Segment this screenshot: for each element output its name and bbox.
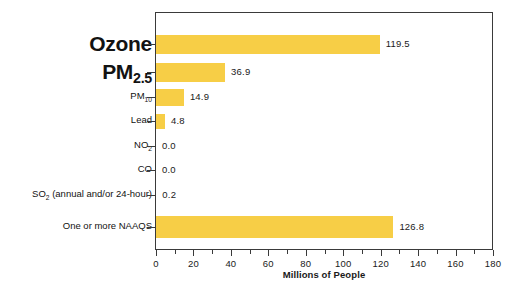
x-tick-major — [193, 250, 194, 256]
category-label: Ozone — [89, 33, 152, 54]
bar-value-label: 0.0 — [162, 140, 176, 151]
bar-value-label: 36.9 — [231, 66, 250, 77]
x-tick-minor — [287, 250, 288, 254]
bar-value-label: 126.8 — [399, 221, 424, 232]
x-tick-major — [306, 250, 307, 256]
category-label: PM2.5 — [102, 61, 152, 82]
bar — [156, 114, 165, 129]
x-tick-label: 60 — [263, 258, 274, 269]
category-tick — [147, 121, 156, 122]
bar — [156, 63, 225, 82]
x-tick-major — [381, 250, 382, 256]
bar — [156, 35, 380, 54]
x-tick-minor — [212, 250, 213, 254]
category-tick — [147, 44, 156, 45]
x-tick-minor — [325, 250, 326, 254]
x-tick-minor — [474, 250, 475, 254]
x-tick-major — [156, 250, 157, 256]
category-label: CO — [138, 164, 152, 174]
bar-value-label: 14.9 — [190, 91, 209, 102]
x-tick-label: 180 — [485, 258, 501, 269]
bar-value-label: 119.5 — [386, 38, 410, 49]
x-tick-major — [456, 250, 457, 256]
category-label: NO2 — [134, 140, 152, 150]
bar — [156, 216, 393, 238]
x-tick-label: 100 — [335, 258, 351, 269]
bar-value-label: 4.8 — [171, 115, 185, 126]
x-axis-title: Millions of People — [155, 269, 493, 280]
x-tick-minor — [362, 250, 363, 254]
bar-value-label: 0.2 — [162, 189, 176, 200]
x-tick-minor — [399, 250, 400, 254]
category-label: Lead — [131, 115, 152, 125]
category-tick — [147, 72, 156, 73]
x-tick-label: 160 — [447, 258, 463, 269]
x-tick-major — [418, 250, 419, 256]
category-tick — [147, 195, 156, 196]
x-tick-major — [268, 250, 269, 256]
x-tick-label: 0 — [153, 258, 158, 269]
x-tick-major — [231, 250, 232, 256]
bar-chart: Ozone119.5PM2.536.9PM1014.9Lead4.8NO20.0… — [0, 0, 510, 284]
category-tick — [147, 97, 156, 98]
category-tick — [147, 146, 156, 147]
bar — [156, 89, 184, 106]
bar-value-label: 0.0 — [162, 164, 176, 175]
x-tick-minor — [250, 250, 251, 254]
x-tick-label: 140 — [410, 258, 426, 269]
category-tick — [147, 170, 156, 171]
x-tick-label: 80 — [300, 258, 311, 269]
chart-rows: Ozone119.5PM2.536.9PM1014.9Lead4.8NO20.0… — [0, 12, 510, 250]
x-tick-major — [493, 250, 494, 256]
x-tick-minor — [437, 250, 438, 254]
category-label: One or more NAAQS — [63, 221, 152, 231]
category-tick — [147, 227, 156, 228]
x-tick-minor — [175, 250, 176, 254]
x-tick-major — [343, 250, 344, 256]
x-tick-label: 20 — [188, 258, 199, 269]
x-tick-label: 40 — [225, 258, 236, 269]
category-label: PM10 — [130, 91, 152, 101]
category-label: SO2 (annual and/or 24-hour) — [32, 189, 152, 199]
x-tick-label: 120 — [372, 258, 388, 269]
